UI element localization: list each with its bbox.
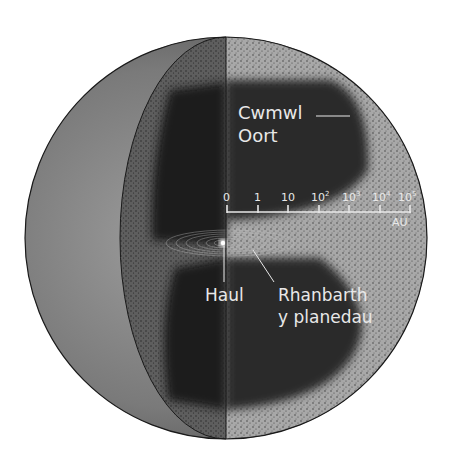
sun-label: Haul [205, 287, 244, 304]
planets-region-label-line2: y planedau [278, 309, 373, 326]
scale-tick-10e4: 104 [372, 192, 390, 203]
scale-tick-0: 0 [223, 192, 230, 203]
scale-tick-1: 1 [254, 192, 261, 203]
oort-cloud-label-line2: Oort [238, 127, 278, 145]
scale-tick-10e2: 102 [311, 192, 329, 203]
scale-tick-10e3: 103 [342, 192, 360, 203]
oort-cloud-diagram: Cwmwl Oort Haul Rhanbarth y planedau 0 1… [0, 0, 455, 472]
planets-region-label-line1: Rhanbarth [278, 287, 367, 304]
oort-cloud-label-line1: Cwmwl [238, 104, 303, 122]
scale-unit-label: AU [392, 217, 408, 228]
sphere-illustration [0, 0, 455, 472]
scale-tick-10e5: 105 [398, 192, 416, 203]
scale-tick-10: 10 [281, 192, 295, 203]
